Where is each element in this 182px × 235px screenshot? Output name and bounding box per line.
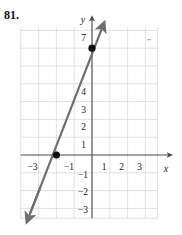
y-tick-label-7: 7 [81, 33, 86, 43]
x-tick-label-3: 3 [137, 162, 142, 172]
point-y-intercept [88, 45, 95, 52]
y-tick-label-4: 4 [81, 87, 86, 97]
x-tick-label--3: −3 [27, 162, 37, 172]
point-x-intercept [53, 151, 60, 158]
y-tick-label-2: 2 [81, 122, 86, 132]
x-axis-label: x [163, 163, 169, 174]
y-tick-label--1: −1 [78, 170, 88, 180]
print-speck [147, 39, 151, 40]
coordinate-graph: −3 −1 1 2 3 7 4 3 2 1 −1 −2 −3 x y [0, 0, 182, 235]
plotted-line [31, 30, 102, 213]
x-tick-label-1: 1 [102, 162, 107, 172]
x-tick-label-2: 2 [119, 162, 124, 172]
grid-lines [21, 27, 158, 218]
y-tick-label-3: 3 [81, 105, 86, 115]
y-tick-label--2: −2 [78, 187, 88, 197]
y-tick-label--3: −3 [78, 205, 88, 215]
x-tick-label--1: −1 [64, 162, 74, 172]
y-axis-label: y [80, 14, 86, 25]
y-tick-label-1: 1 [81, 140, 86, 150]
